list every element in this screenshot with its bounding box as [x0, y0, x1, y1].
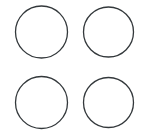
circle-grid-canvas — [0, 0, 150, 130]
canvas-background — [0, 0, 150, 130]
canvas-root — [0, 0, 150, 130]
